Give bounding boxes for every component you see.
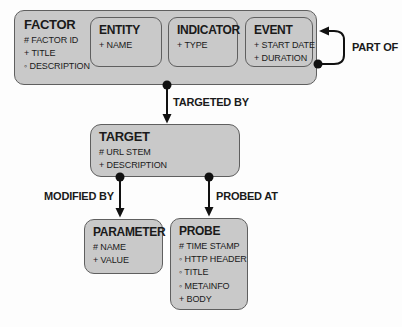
modified-by-arrowhead [116,208,125,218]
part-of-loop-line [318,31,344,64]
relationship-label-modified-by: MODIFIED BY [38,190,114,202]
attribute-name: # NAME [93,241,158,254]
attribute-time-stamp: # TIME STAMP [179,240,243,253]
attribute-metainfo: ◦ METAINFO [179,280,243,293]
entity-attributes-indicator: + TYPE [177,39,233,52]
entity-title-event: EVENT [254,23,308,37]
entity-attributes-factor: # FACTOR ID + TITLE ◦ DESCRIPTION [24,34,90,74]
entity-box-entity: ENTITY + NAME [90,17,162,67]
attribute-description: + DESCRIPTION [99,159,235,172]
relationship-label-part-of: PART OF [352,41,398,53]
attribute-value: + VALUE [93,254,158,267]
entity-title-indicator: INDICATOR [177,23,233,37]
attribute-title: ◦ TITLE [179,266,243,279]
attribute-factor-id: # FACTOR ID [24,34,90,47]
attribute-body: + BODY [179,293,243,306]
attribute-type: + TYPE [177,39,233,52]
relationship-label-probed-at: PROBED AT [216,190,278,202]
entity-title-factor: FACTOR [24,18,90,32]
attribute-url-stem: # URL STEM [99,146,235,159]
targeted-by-arrowhead [163,114,172,124]
entity-title-parameter: PARAMETER [93,225,158,239]
entity-attributes-probe: # TIME STAMP ◦ HTTP HEADER ◦ TITLE ◦ MET… [179,240,243,306]
diagram-canvas: FACTOR # FACTOR ID + TITLE ◦ DESCRIPTION… [0,0,402,327]
relationship-label-targeted-by: TARGETED BY [173,96,249,108]
entity-box-parameter: PARAMETER # NAME + VALUE [84,219,163,274]
entity-title-target: TARGET [99,130,235,144]
entity-attributes-event: + START DATE + DURATION [254,39,308,65]
part-of-arrowhead [319,27,329,36]
entity-box-probe: PROBE # TIME STAMP ◦ HTTP HEADER ◦ TITLE… [170,218,248,310]
entity-title-probe: PROBE [179,224,243,238]
entity-title-entity: ENTITY [99,23,157,37]
attribute-http-header: ◦ HTTP HEADER [179,253,243,266]
entity-attributes-entity: + NAME [99,39,157,52]
attribute-title: + TITLE [24,47,90,60]
entity-attributes-target: # URL STEM + DESCRIPTION [99,146,235,172]
attribute-duration: + DURATION [254,52,308,65]
probed-at-arrowhead [205,207,214,217]
attribute-description: ◦ DESCRIPTION [24,60,90,73]
entity-box-indicator: INDICATOR + TYPE [168,17,238,67]
entity-box-target: TARGET # URL STEM + DESCRIPTION [90,124,240,177]
attribute-start-date: + START DATE [254,39,308,52]
entity-box-event: EVENT + START DATE + DURATION [245,17,313,67]
attribute-name: + NAME [99,39,157,52]
entity-attributes-parameter: # NAME + VALUE [93,241,158,267]
